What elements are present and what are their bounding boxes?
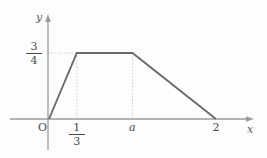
x-tick-label-a: a [129,122,136,133]
fraction-denominator: 3 [69,135,85,147]
graph-figure: y x O 1 3 a 2 3 4 [0,0,267,158]
origin-label: O [38,122,47,133]
x-tick-label-one-third: 1 3 [69,122,85,147]
x-axis-label: x [247,124,253,135]
x-axis-arrowhead [246,116,254,122]
guide-lines [48,53,133,119]
fraction-denominator: 4 [26,54,42,66]
y-axis-label: y [36,12,42,23]
x-tick-label-two: 2 [213,122,220,133]
y-axis-arrowhead [45,14,51,22]
y-tick-label-three-quarters: 3 4 [26,41,42,66]
fraction-numerator: 1 [69,122,85,134]
fraction-numerator: 3 [26,41,42,53]
